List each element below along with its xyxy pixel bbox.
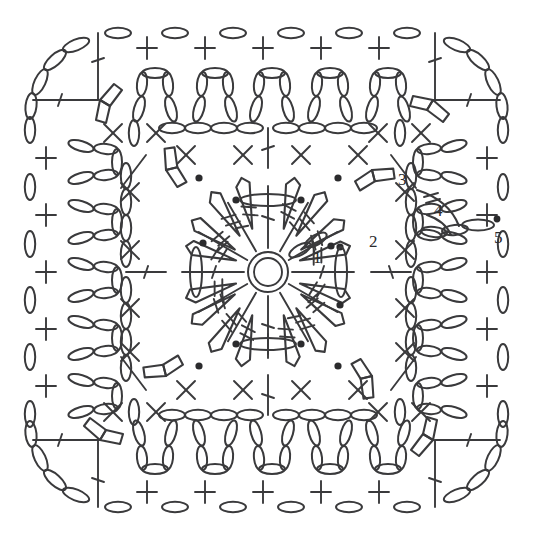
corner-arc-tr <box>442 35 509 120</box>
round1-magic-ring <box>248 252 288 292</box>
round-label-4: 4 <box>434 201 443 220</box>
inner-bottom-chain-row <box>159 375 377 420</box>
corner-arc-br <box>442 420 509 505</box>
corner-arc-bl <box>24 420 91 505</box>
border-left-chains <box>25 117 35 427</box>
round-label-5: 5 <box>494 228 503 247</box>
round-label-3: 3 <box>398 170 407 189</box>
diagram-canvas: 1 2 3 4 5 <box>0 0 533 540</box>
crochet-chart-svg: 1 2 3 4 5 <box>0 0 533 540</box>
round-label-2: 2 <box>369 232 378 251</box>
round-label-1: 1 <box>313 248 322 267</box>
border-right-chains <box>498 117 508 427</box>
